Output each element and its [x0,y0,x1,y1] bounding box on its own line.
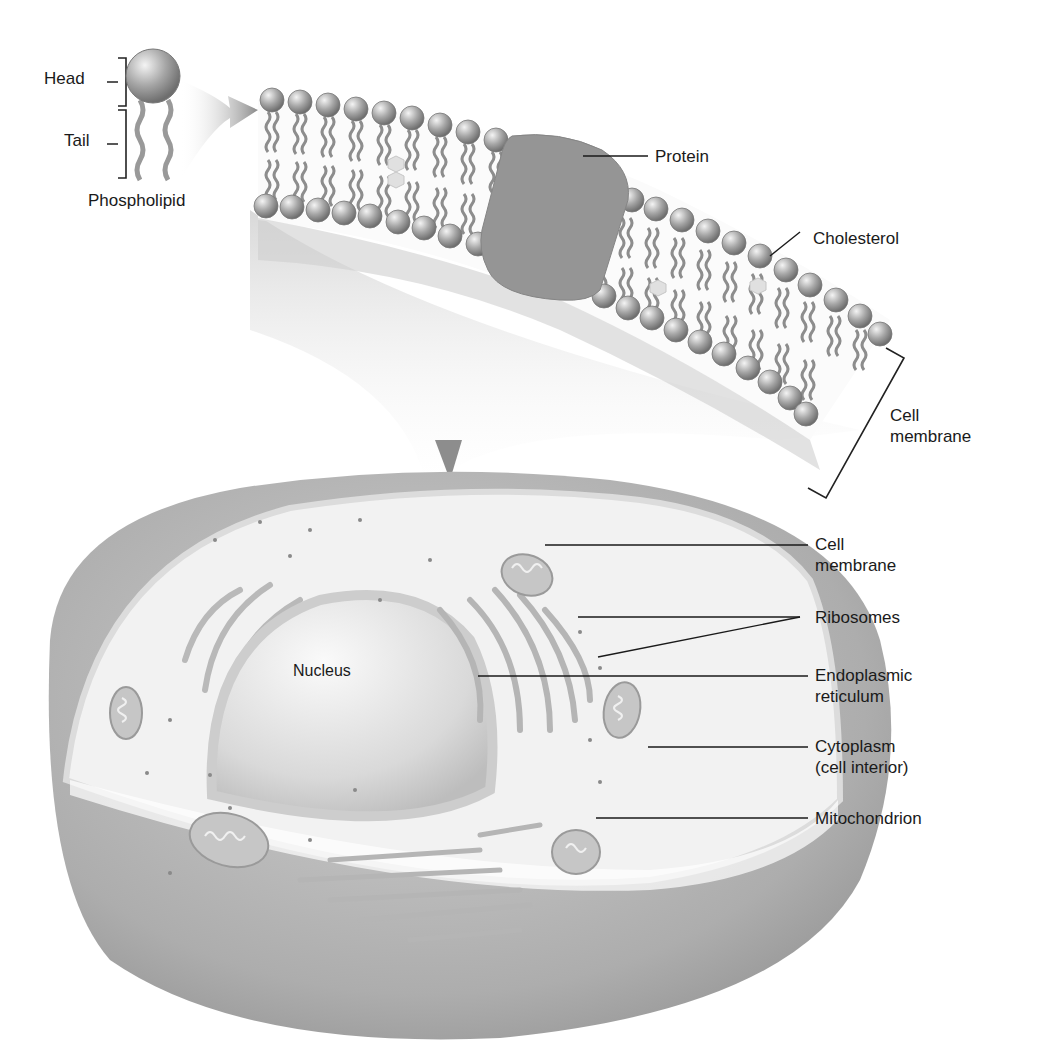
label-cell-membrane-closeup: Cell membrane [890,405,971,447]
label-phospholipid: Phospholipid [88,190,185,211]
label-mitochondrion: Mitochondrion [815,808,922,829]
label-head: Head [44,68,85,89]
label-cell-membrane: Cell membrane [815,534,896,576]
label-endoplasmic-reticulum: Endoplasmic reticulum [815,665,912,707]
phospholipid-molecule [107,49,258,180]
cell-body [49,472,892,1040]
label-cytoplasm: Cytoplasm (cell interior) [815,736,909,778]
label-nucleus: Nucleus [293,660,351,681]
label-tail: Tail [64,130,90,151]
label-ribosomes: Ribosomes [815,607,900,628]
cell-diagram-artwork [0,0,1040,1056]
label-cholesterol: Cholesterol [813,228,899,249]
label-protein: Protein [655,146,709,167]
